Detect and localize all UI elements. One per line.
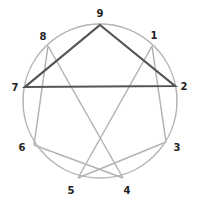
point-label-6: 6 <box>19 142 26 153</box>
connector-line-8-4 <box>48 46 123 178</box>
connector-line-1-3 <box>152 46 166 142</box>
point-label-2: 2 <box>181 81 188 92</box>
point-label-1: 1 <box>151 30 158 41</box>
point-label-3: 3 <box>174 142 181 153</box>
point-label-7: 7 <box>12 82 19 93</box>
connector-line-8-6 <box>34 46 48 145</box>
point-label-4: 4 <box>124 185 131 196</box>
point-labels: 912345678 <box>12 8 188 196</box>
connector-line-6-4 <box>34 145 123 178</box>
outer-circle <box>23 24 177 178</box>
point-label-9: 9 <box>97 8 104 19</box>
point-label-5: 5 <box>68 185 75 196</box>
connector-line-3-5 <box>78 142 166 178</box>
enneagram-diagram: 912345678 <box>0 0 200 200</box>
connector-line-1-5 <box>78 46 152 178</box>
point-label-8: 8 <box>40 31 47 42</box>
